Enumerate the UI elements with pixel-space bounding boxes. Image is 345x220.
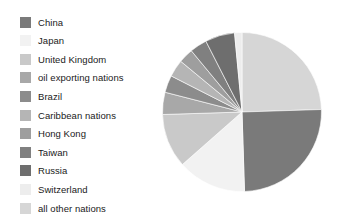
legend-item[interactable]: all other nations [20, 201, 106, 215]
legend-item[interactable]: Brazil [20, 89, 62, 103]
legend-item[interactable]: Taiwan [20, 145, 68, 159]
legend-item-label: Taiwan [38, 147, 68, 158]
pie-svg [162, 32, 322, 192]
legend-item[interactable]: Switzerland [20, 182, 88, 196]
legend-swatch-icon [20, 110, 31, 121]
legend-swatch-icon [20, 35, 31, 46]
legend-swatch-icon [20, 128, 31, 139]
legend-item-label: all other nations [38, 203, 106, 214]
legend-item[interactable]: Japan [20, 34, 64, 48]
legend-swatch-icon [20, 203, 31, 214]
legend-swatch-icon [20, 54, 31, 65]
legend-item[interactable]: Russia [20, 164, 67, 178]
legend-item-label: Brazil [38, 91, 62, 102]
legend-item[interactable]: Caribbean nations [20, 108, 116, 122]
legend-swatch-icon [20, 165, 31, 176]
legend-item-label: Japan [38, 35, 64, 46]
legend-swatch-icon [20, 184, 31, 195]
pie-chart-figure: ChinaJapanUnited Kingdomoil exporting na… [0, 0, 345, 220]
chart-legend: ChinaJapanUnited Kingdomoil exporting na… [0, 0, 150, 220]
legend-item-label: United Kingdom [38, 54, 106, 65]
legend-item-label: oil exporting nations [38, 72, 124, 83]
legend-item-label: Caribbean nations [38, 110, 116, 121]
pie-slice[interactable] [242, 110, 321, 192]
legend-item[interactable]: China [20, 15, 63, 29]
legend-swatch-icon [20, 147, 31, 158]
legend-item[interactable]: oil exporting nations [20, 71, 124, 85]
legend-item-label: Hong Kong [38, 128, 86, 139]
legend-swatch-icon [20, 17, 31, 28]
legend-swatch-icon [20, 91, 31, 102]
pie-chart-graphic [162, 32, 322, 192]
pie-slice[interactable] [242, 33, 321, 113]
legend-item[interactable]: Hong Kong [20, 127, 86, 141]
legend-swatch-icon [20, 72, 31, 83]
legend-item-label: China [38, 17, 63, 28]
legend-item-label: Russia [38, 165, 67, 176]
legend-item-label: Switzerland [38, 184, 88, 195]
legend-item[interactable]: United Kingdom [20, 52, 106, 66]
